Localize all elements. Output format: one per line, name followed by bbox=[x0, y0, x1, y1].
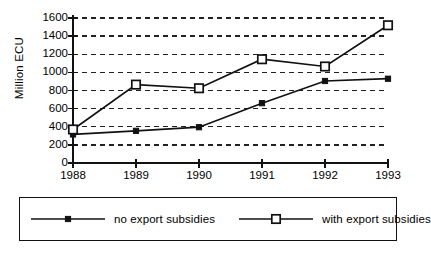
data-point-marker bbox=[196, 125, 201, 130]
filled-square-marker bbox=[31, 211, 105, 227]
data-point-marker bbox=[258, 55, 266, 63]
data-point-marker bbox=[69, 125, 77, 133]
legend-item: no export subsidies bbox=[31, 211, 215, 227]
x-axis-tick-labels: 198819891990199119921993 bbox=[0, 169, 418, 187]
x-axis-tick-label: 1992 bbox=[295, 169, 355, 182]
series-line bbox=[73, 79, 388, 135]
plot-area: Million ECU 0200400600800100012001400160… bbox=[0, 0, 418, 190]
data-point-marker bbox=[259, 101, 264, 106]
x-axis-tick-label: 1993 bbox=[358, 169, 418, 182]
chart-legend: no export subsidieswith export subsidies bbox=[19, 197, 397, 241]
data-point-marker bbox=[133, 128, 138, 133]
legend-item-label: no export subsidies bbox=[114, 213, 215, 225]
x-axis-tick-label: 1989 bbox=[106, 169, 166, 182]
legend-marker bbox=[65, 216, 70, 221]
legend-marker bbox=[272, 215, 280, 223]
series-2 bbox=[69, 21, 392, 134]
data-point-marker bbox=[322, 78, 327, 83]
x-axis-tick-label: 1988 bbox=[43, 169, 103, 182]
legend-item: with export subsidies bbox=[239, 211, 431, 227]
data-point-marker bbox=[384, 21, 392, 29]
x-axis-tick-label: 1990 bbox=[169, 169, 229, 182]
data-point-marker bbox=[385, 76, 390, 81]
gridlines bbox=[73, 18, 388, 145]
series-1 bbox=[70, 76, 390, 137]
data-point-marker bbox=[132, 80, 140, 88]
data-point-marker bbox=[321, 62, 329, 70]
open-square-marker bbox=[239, 211, 313, 227]
x-axis-tick-label: 1991 bbox=[232, 169, 292, 182]
legend-entries: no export subsidieswith export subsidies bbox=[20, 198, 396, 240]
series-line bbox=[73, 25, 388, 129]
legend-item-label: with export subsidies bbox=[322, 213, 431, 225]
plot-canvas bbox=[0, 0, 418, 190]
data-point-marker bbox=[195, 84, 203, 92]
